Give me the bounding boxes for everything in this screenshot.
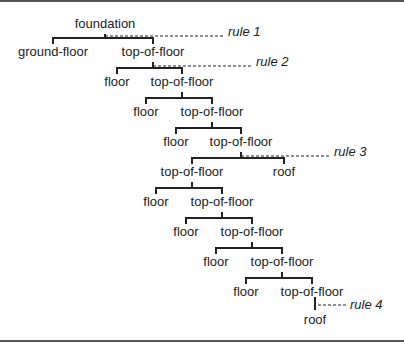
node-floor: floor: [143, 194, 169, 209]
node-roof: roof: [273, 164, 296, 179]
node-floor: floor: [173, 224, 199, 239]
rule-label: rule 3: [334, 144, 367, 159]
node-top-of-floor: top-of-floor: [221, 224, 285, 239]
node-top-of-floor: top-of-floor: [181, 104, 245, 119]
node-floor: floor: [133, 104, 159, 119]
node-top-of-floor: top-of-floor: [210, 134, 274, 149]
node-floor: floor: [104, 74, 130, 89]
parse-tree-diagram: foundation ground-floor top-of-floor flo…: [0, 0, 404, 344]
node-foundation: foundation: [75, 16, 136, 31]
node-floor: floor: [233, 284, 259, 299]
rule-label: rule 1: [228, 24, 261, 39]
node-top-of-floor: top-of-floor: [151, 74, 215, 89]
node-top-of-floor: top-of-floor: [161, 164, 225, 179]
node-top-of-floor: top-of-floor: [281, 284, 345, 299]
node-top-of-floor: top-of-floor: [122, 44, 186, 59]
node-top-of-floor: top-of-floor: [251, 254, 315, 269]
node-ground-floor: ground-floor: [18, 44, 89, 59]
rule-label: rule 4: [350, 297, 383, 312]
node-floor: floor: [203, 254, 229, 269]
tree-nodes: foundation ground-floor top-of-floor flo…: [18, 16, 344, 327]
node-floor: floor: [163, 134, 189, 149]
node-roof: roof: [304, 312, 327, 327]
rule-label: rule 2: [256, 54, 289, 69]
node-top-of-floor: top-of-floor: [191, 194, 255, 209]
